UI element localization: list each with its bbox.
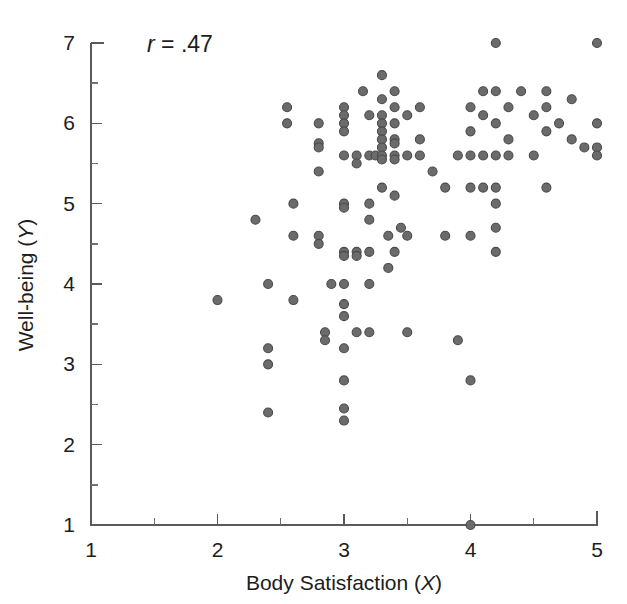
data-point [491,183,500,192]
y-tick-label: 1 [63,513,75,536]
data-point [377,95,386,104]
data-point [491,39,500,48]
data-point [289,199,298,208]
data-point [365,215,374,224]
data-point [213,296,222,305]
data-point [251,215,260,224]
data-point [352,251,361,260]
data-point [491,87,500,96]
data-point [441,231,450,240]
y-tick-label: 5 [63,192,75,215]
x-tick-label: 3 [338,538,350,561]
data-point [365,111,374,120]
data-point [340,300,349,309]
data-point [466,151,475,160]
data-point [517,87,526,96]
data-point [466,103,475,112]
data-point [403,111,412,120]
data-point [340,203,349,212]
y-axis-title: Well-being (Y) [14,219,37,352]
data-point [529,151,538,160]
data-point [390,87,399,96]
x-tick-label: 1 [85,538,97,561]
data-point [352,159,361,168]
correlation-annotation: r = .47 [147,31,213,57]
data-point [453,151,462,160]
data-point [384,263,393,272]
data-point [491,119,500,128]
x-tick-label: 4 [465,538,477,561]
data-point [365,247,374,256]
y-tick-label: 2 [63,433,75,456]
data-point [491,223,500,232]
data-point [264,280,273,289]
data-point [593,39,602,48]
data-point [377,155,386,164]
x-axis-title: Body Satisfaction (X) [246,571,442,594]
y-axis-tick-labels: 1234567 [63,31,75,536]
x-axis-ticks [91,514,597,525]
y-tick-label: 7 [63,31,75,54]
data-point [352,328,361,337]
data-point [327,280,336,289]
data-point [479,183,488,192]
plot-canvas: 1234567 12345 r = .47 Body Satisfaction … [0,0,627,604]
data-point [542,183,551,192]
data-point [283,119,292,128]
data-point [567,135,576,144]
data-point [542,87,551,96]
data-point [314,119,323,128]
data-point [415,151,424,160]
data-point [314,239,323,248]
data-point [504,103,513,112]
data-point [365,328,374,337]
data-point [441,183,450,192]
data-point [283,103,292,112]
data-point [340,416,349,425]
data-point [403,151,412,160]
data-point [340,376,349,385]
data-point [415,103,424,112]
data-point [340,344,349,353]
data-point [340,127,349,136]
data-point [491,199,500,208]
data-point [479,87,488,96]
data-point [504,151,513,160]
data-point [466,231,475,240]
data-point [466,127,475,136]
data-point [466,183,475,192]
data-point [390,191,399,200]
y-axis-title-group: Well-being (Y) [14,219,37,352]
data-point [396,223,405,232]
data-point [340,151,349,160]
data-point [491,151,500,160]
data-point [321,336,330,345]
data-point [580,143,589,152]
y-tick-label: 3 [63,352,75,375]
data-point [428,167,437,176]
data-point [390,139,399,148]
data-point [529,111,538,120]
data-point [289,296,298,305]
data-point [314,167,323,176]
data-point [542,127,551,136]
data-point [390,103,399,112]
data-point [491,247,500,256]
data-point [479,151,488,160]
data-point [377,71,386,80]
data-point [340,280,349,289]
data-point [358,87,367,96]
data-point [593,119,602,128]
data-point [555,119,564,128]
data-point [403,231,412,240]
data-point [264,344,273,353]
y-tick-label: 4 [63,272,75,295]
data-point [390,155,399,164]
data-point [384,231,393,240]
data-point [340,312,349,321]
data-point [403,328,412,337]
data-point [264,408,273,417]
y-tick-label: 6 [63,111,75,134]
data-point [365,199,374,208]
data-point [593,151,602,160]
